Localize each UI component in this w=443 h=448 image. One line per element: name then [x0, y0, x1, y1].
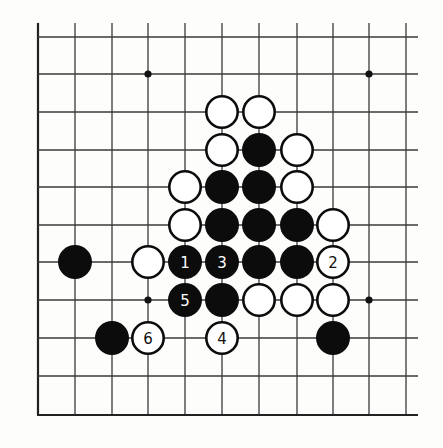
black-stone-icon [205, 170, 239, 204]
white-stone [206, 96, 237, 127]
star-point-icon [365, 296, 372, 303]
black-stone-icon [316, 321, 350, 355]
white-stone-icon [317, 209, 348, 240]
white-stone [317, 209, 348, 240]
black-stone-icon [242, 208, 276, 242]
move-number-label: 1 [180, 254, 190, 272]
black-stone [242, 170, 276, 204]
white-stone-icon [243, 284, 274, 315]
move-number-label: 5 [180, 292, 190, 310]
black-stone-icon [242, 170, 276, 204]
black-stone [280, 245, 314, 279]
white-stone [243, 284, 274, 315]
go-board: 132564 [0, 0, 443, 448]
white-stone [169, 209, 200, 240]
white-stone-move-4: 4 [206, 322, 237, 353]
white-stone [243, 96, 274, 127]
black-stone [205, 170, 239, 204]
black-stone [205, 208, 239, 242]
black-stone-move-5: 5 [168, 283, 202, 317]
move-number-label: 2 [328, 254, 338, 272]
black-stone [242, 133, 276, 167]
white-stone-icon [281, 134, 312, 165]
white-stone-icon [169, 209, 200, 240]
go-board-grid: 132564 [0, 0, 443, 448]
black-stone [280, 208, 314, 242]
star-point-icon [144, 296, 151, 303]
black-stone-icon [242, 245, 276, 279]
move-number-label: 3 [217, 254, 227, 272]
black-stone-icon [58, 245, 92, 279]
stones: 132564 [58, 96, 350, 355]
black-stone-icon [280, 208, 314, 242]
black-stone [242, 245, 276, 279]
black-stone-icon [205, 283, 239, 317]
black-stone-move-1: 1 [168, 245, 202, 279]
white-stone [281, 284, 312, 315]
white-stone-icon [206, 96, 237, 127]
move-number-label: 4 [217, 330, 227, 348]
star-point-icon [365, 70, 372, 77]
white-stone [317, 284, 348, 315]
black-stone [95, 321, 129, 355]
white-stone-icon [132, 246, 163, 277]
white-stone-icon [206, 134, 237, 165]
white-stone [206, 134, 237, 165]
move-number-label: 6 [143, 330, 153, 348]
white-stone-icon [317, 284, 348, 315]
white-stone-move-2: 2 [317, 246, 348, 277]
white-stone [169, 171, 200, 202]
white-stone [281, 134, 312, 165]
black-stone-icon [280, 245, 314, 279]
black-stone [316, 321, 350, 355]
star-point-icon [144, 70, 151, 77]
black-stone-icon [95, 321, 129, 355]
black-stone-icon [205, 208, 239, 242]
white-stone-icon [243, 96, 274, 127]
black-stone-move-3: 3 [205, 245, 239, 279]
white-stone [281, 171, 312, 202]
black-stone [205, 283, 239, 317]
white-stone-icon [169, 171, 200, 202]
black-stone [58, 245, 92, 279]
black-stone [242, 208, 276, 242]
white-stone-icon [281, 284, 312, 315]
white-stone [132, 246, 163, 277]
white-stone-icon [281, 171, 312, 202]
white-stone-move-6: 6 [132, 322, 163, 353]
black-stone-icon [242, 133, 276, 167]
